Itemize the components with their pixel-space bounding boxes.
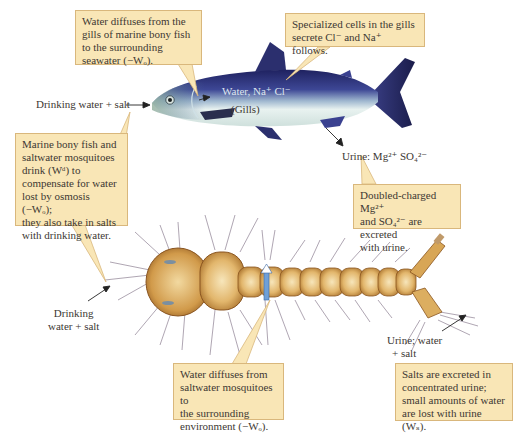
callout-line: small amounts of water: [402, 394, 506, 407]
label-mosquito-urine: Urine; water + salt: [387, 334, 442, 360]
callout-line: Specialized cells in the gills: [292, 18, 418, 31]
arrow-mosquito-drinking: [88, 289, 106, 301]
label-line: water + salt: [48, 320, 99, 333]
callout-line: to the surrounding: [82, 41, 195, 54]
callout-line: Water diffuses from: [180, 368, 277, 381]
callout-tail-gill-diffusion: [178, 64, 198, 96]
callout-mosquito-diffusion: Water diffuses from saltwater mosquitoes…: [173, 363, 284, 420]
callout-line: and SO₄²⁻ are excreted: [360, 215, 454, 241]
label-line: + salt: [387, 347, 442, 360]
callout-line: with urine.: [360, 241, 454, 254]
callout-line: environment (−Wₒ).: [180, 420, 277, 433]
callout-salts-excreted: Salts are excreted in concentrated urine…: [395, 363, 513, 421]
callout-tail-mosquito-diffusion: [232, 300, 270, 364]
callout-doubled-charged: Doubled-charged Mg²⁺ and SO₄²⁻ are excre…: [353, 184, 461, 229]
callout-line: Marine bony fish and: [22, 138, 121, 151]
callout-line: with drinking water.: [22, 229, 121, 242]
callout-line: concentrated urine;: [402, 381, 506, 394]
label-mosquito-drinking: Drinking water + salt: [48, 307, 99, 333]
callout-line: Salts are excreted in: [402, 368, 506, 381]
arrow-mosquito-urine: [442, 318, 462, 331]
label-fish-urine: Urine: Mg²⁺ SO₄²⁻: [342, 150, 427, 163]
label-line: Drinking: [48, 307, 99, 320]
arrow-fish-urine: [326, 128, 340, 142]
callout-line: the surrounding: [180, 407, 277, 420]
callout-line: Water diffuses from the: [82, 15, 195, 28]
callout-line: seawater (−Wₒ).: [82, 54, 195, 67]
callout-line: they also take in salts: [22, 216, 121, 229]
callout-line: lost by osmosis (−Wₒ);: [22, 190, 121, 216]
label-fish-water-ions: Water, Na⁺ Cl⁻: [222, 85, 291, 98]
callout-line: compensate for water: [22, 177, 121, 190]
callout-line: are lost with urine (Wₛ).: [402, 407, 506, 433]
callout-line: saltwater mosquitoes to: [180, 381, 277, 407]
label-fish-gills: (Gills): [231, 103, 260, 116]
callout-line: saltwater mosquitoes: [22, 151, 121, 164]
label-fish-drinking: Drinking water + salt: [36, 98, 130, 111]
callout-line: drink (Wᵈ) to: [22, 164, 121, 177]
callout-drink-compensate: Marine bony fish and saltwater mosquitoe…: [15, 133, 128, 226]
callout-fish-gill-diffusion: Water diffuses from the gills of marine …: [75, 10, 202, 65]
callout-line: gills of marine bony fish: [82, 28, 195, 41]
callout-gill-cells: Specialized cells in the gills secrete C…: [285, 13, 425, 47]
callout-line: secrete Cl⁻ and Na⁺ follows.: [292, 31, 418, 57]
label-line: Urine; water: [387, 334, 442, 347]
callout-line: Doubled-charged Mg²⁺: [360, 189, 454, 215]
